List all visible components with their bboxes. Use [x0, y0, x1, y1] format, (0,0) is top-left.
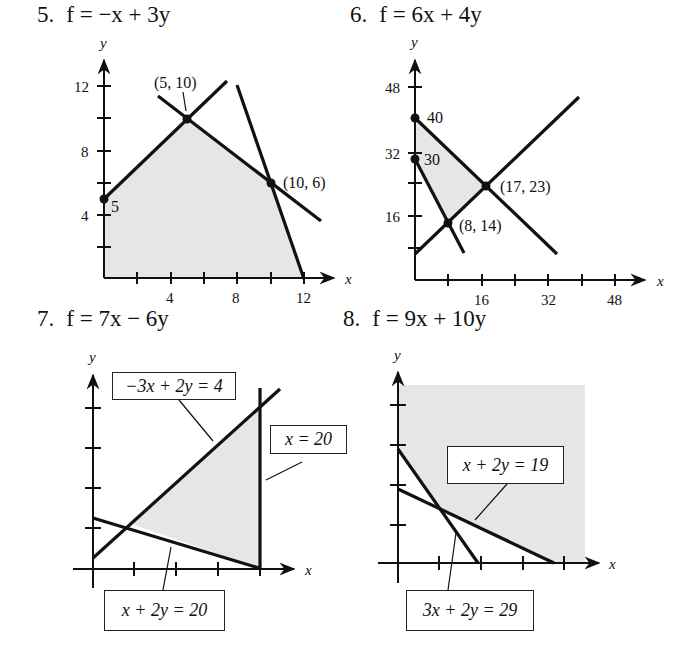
x-tick-label: 4: [166, 290, 174, 306]
equation-label: 3x + 2y = 29: [423, 600, 517, 621]
y-axis-label: y: [392, 347, 401, 363]
x-axis-label: x: [608, 556, 616, 572]
vertex-point: [411, 114, 420, 123]
y-axis-label: y: [98, 35, 107, 51]
x-tick-label: 32: [541, 292, 556, 308]
x-tick-label: 48: [607, 292, 622, 308]
label-leader: [179, 400, 213, 441]
y-tick-label: 16: [385, 209, 401, 225]
feasible-region: [415, 118, 486, 223]
equation-label-box: x = 20: [270, 425, 347, 454]
equation-label-box: 3x + 2y = 29: [406, 590, 534, 631]
y-axis-label: y: [409, 34, 418, 50]
equation-label: x + 2y = 20: [122, 600, 207, 621]
x-tick-label: 16: [474, 292, 490, 308]
vertex-point: [100, 195, 109, 204]
vertex-point: [267, 179, 276, 188]
x-axis-label: x: [304, 562, 312, 578]
feasible-region: [104, 120, 304, 278]
point-label: (5, 10): [154, 74, 197, 92]
y-tick-label: 32: [385, 146, 400, 162]
equation-label-box: −3x + 2y = 4: [112, 372, 236, 400]
vertex-point: [444, 219, 453, 228]
y-tick-label: 12: [74, 79, 89, 95]
x-tick-label: 12: [296, 290, 311, 306]
feasible-region: [128, 408, 260, 568]
x-axis-label: x: [656, 273, 664, 289]
y-axis-label: y: [87, 349, 96, 365]
x-tick-label: 8: [232, 290, 240, 306]
y-tick-label: 4: [81, 208, 89, 224]
point-label: 40: [427, 109, 443, 126]
label-leader: [448, 533, 456, 590]
vertex-point: [482, 182, 491, 191]
point-leader: [183, 92, 186, 111]
equation-label-box: x + 2y = 19: [447, 446, 564, 484]
equation-label: x = 20: [285, 429, 332, 450]
panel-6-graph: y x 16 32 48 48 32 16 40 30: [385, 34, 664, 308]
vertex-point: [411, 155, 420, 164]
point-label: (17, 23): [500, 178, 551, 196]
y-tick-label: 48: [385, 80, 400, 96]
label-leader: [266, 462, 302, 480]
point-label: (10, 6): [283, 174, 326, 192]
point-label: 30: [424, 151, 440, 168]
point-label: 5: [111, 198, 119, 215]
x-axis-label: x: [344, 271, 352, 287]
y-tick-label: 8: [81, 144, 89, 160]
equation-label: x + 2y = 19: [463, 455, 548, 476]
equation-label: −3x + 2y = 4: [125, 376, 222, 397]
plots-canvas: y x 4 8 12 12 8 4: [0, 0, 693, 672]
equation-label-box: x + 2y = 20: [104, 590, 225, 631]
panel-5-graph: y x 4 8 12 12 8 4: [74, 35, 352, 306]
vertex-point: [183, 115, 192, 124]
point-label: (8, 14): [459, 217, 502, 235]
